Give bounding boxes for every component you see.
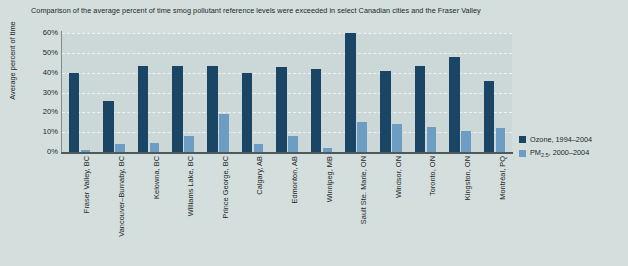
legend-label-pm25-subscript: 2.5 <box>541 152 549 158</box>
bar-group <box>166 33 201 152</box>
y-tick-label: 30% <box>32 88 58 97</box>
legend-label-pm25: PM2.5, 2000–2004 <box>530 148 589 158</box>
x-tick-label: Fraser Valley, BC <box>82 156 91 213</box>
bar-group <box>408 33 443 152</box>
x-tick-label: Edmonton, AB <box>290 156 299 204</box>
bar-pm25[interactable] <box>496 128 506 152</box>
x-tick-label: Williams Lake, BC <box>186 156 195 216</box>
x-axis-tick-labels: Fraser Valley, BCVancouver–Burnaby, BCKe… <box>62 152 512 264</box>
bar-ozone[interactable] <box>138 66 149 152</box>
bar-group <box>304 33 339 152</box>
chart-figure: Comparison of the average percent of tim… <box>0 0 628 266</box>
bar-ozone[interactable] <box>172 66 183 152</box>
bar-ozone[interactable] <box>311 69 322 152</box>
bar-pm25[interactable] <box>115 144 125 152</box>
y-tick-label: 50% <box>32 48 58 57</box>
bar-group <box>374 33 409 152</box>
x-tick-label: Prince George, BC <box>221 156 230 218</box>
bar-group <box>235 33 270 152</box>
bar-ozone[interactable] <box>484 81 495 152</box>
legend-swatch-ozone <box>519 136 526 143</box>
bar-ozone[interactable] <box>103 101 114 152</box>
legend-label-pm25-suffix: , 2000–2004 <box>549 148 590 157</box>
y-axis-title: Average percent of time <box>8 3 17 119</box>
bar-group <box>270 33 305 152</box>
bar-pm25[interactable] <box>254 144 264 152</box>
bar-ozone[interactable] <box>207 66 218 152</box>
bar-ozone[interactable] <box>380 71 391 152</box>
bar-pm25[interactable] <box>219 114 229 152</box>
legend-item-pm25[interactable]: PM2.5, 2000–2004 <box>519 148 592 158</box>
bar-group <box>477 33 512 152</box>
bar-ozone[interactable] <box>449 57 460 152</box>
bar-group <box>339 33 374 152</box>
bar-pm25[interactable] <box>288 136 298 152</box>
y-axis-line <box>61 31 62 153</box>
x-tick-label: Toronto, ON <box>428 156 437 196</box>
bar-group <box>97 33 132 152</box>
y-tick-label: 40% <box>32 68 58 77</box>
chart-title: Comparison of the average percent of tim… <box>31 6 611 16</box>
legend-label-ozone: Ozone, 1994–2004 <box>530 135 592 144</box>
chart-legend: Ozone, 1994–2004 PM2.5, 2000–2004 <box>519 135 592 162</box>
bar-pm25[interactable] <box>184 136 194 152</box>
bar-pm25[interactable] <box>357 122 367 152</box>
bar-group <box>443 33 478 152</box>
legend-swatch-pm25 <box>519 150 526 157</box>
y-tick-label: 10% <box>32 127 58 136</box>
legend-label-pm25-prefix: PM <box>530 148 541 157</box>
bar-group <box>62 33 97 152</box>
y-tick-label: 60% <box>32 28 58 37</box>
y-axis-tick-labels: 60%50%40%30%20%10%0% <box>28 0 58 266</box>
bar-ozone[interactable] <box>69 73 80 152</box>
x-tick-label: Calgary, AB <box>255 156 264 195</box>
x-tick-label: Vancouver–Burnaby, BC <box>117 156 126 237</box>
x-tick-label: Winnipeg, MB <box>325 156 334 202</box>
bar-pm25[interactable] <box>392 124 402 152</box>
legend-item-ozone[interactable]: Ozone, 1994–2004 <box>519 135 592 144</box>
bar-pm25[interactable] <box>150 143 160 152</box>
y-tick-label: 0% <box>32 147 58 156</box>
x-tick-label: Kelowna, BC <box>152 156 161 199</box>
bar-ozone[interactable] <box>276 67 287 152</box>
bar-ozone[interactable] <box>345 33 356 152</box>
x-tick-label: Montréal, PQ <box>498 156 507 200</box>
bar-pm25[interactable] <box>427 127 437 152</box>
bar-ozone[interactable] <box>242 73 253 152</box>
x-tick-label: Sault Ste. Marie, ON <box>359 156 368 224</box>
bar-pm25[interactable] <box>461 131 471 152</box>
x-tick-label: Windsor, ON <box>394 156 403 198</box>
bar-group <box>131 33 166 152</box>
plot-area <box>62 33 512 152</box>
bar-ozone[interactable] <box>415 66 426 152</box>
x-tick-label: Kingston, ON <box>463 156 472 200</box>
bar-group <box>200 33 235 152</box>
y-tick-label: 20% <box>32 107 58 116</box>
